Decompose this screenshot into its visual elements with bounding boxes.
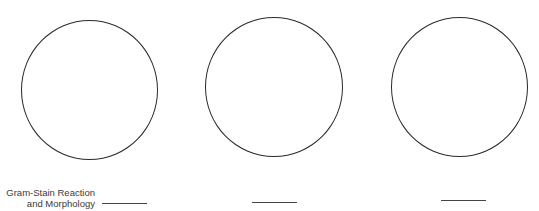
gram-stain-label-line1: Gram-Stain Reaction (0, 187, 95, 198)
answer-blank-2[interactable] (252, 202, 297, 203)
answer-blank-1[interactable] (102, 203, 147, 204)
answer-blank-3[interactable] (441, 200, 486, 201)
drawing-circle-2 (205, 17, 343, 157)
gram-stain-label-line2: and Morphology (0, 198, 95, 209)
gram-stain-label: Gram-Stain Reaction and Morphology (0, 187, 95, 209)
drawing-circle-3 (391, 17, 528, 157)
drawing-circle-1 (21, 20, 158, 160)
